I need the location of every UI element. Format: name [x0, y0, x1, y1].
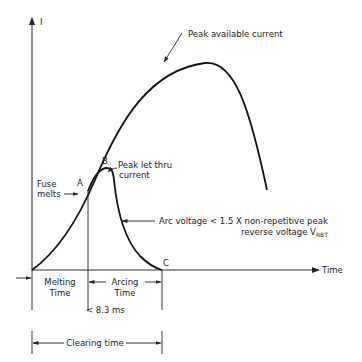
- peak-available-label: Peak available current: [188, 29, 283, 39]
- total-time-limit-label: < 8.3 ms: [86, 305, 125, 315]
- point-c-label: C: [163, 258, 169, 268]
- melting-time-label-1: Melting: [44, 277, 75, 287]
- clearing-time-label: Clearing time: [66, 338, 123, 348]
- arcing-time-label-1: Arcing: [112, 277, 139, 287]
- arc-voltage-text: reverse voltage V: [241, 227, 316, 237]
- arcing-time-label-2: Time: [114, 288, 136, 298]
- point-b-label: B: [102, 156, 108, 166]
- y-axis-label: I: [40, 17, 43, 27]
- peak-let-thru-label-1: Peak let thru: [118, 160, 172, 170]
- let-thru-current-curve: [88, 168, 162, 270]
- fuse-melts-label-2: melts: [37, 189, 61, 199]
- melting-time-label-2: Time: [49, 288, 71, 298]
- x-axis-label: Time: [321, 265, 343, 275]
- point-a-label: A: [77, 178, 83, 188]
- arc-voltage-subscript: RBT: [316, 231, 328, 238]
- fuse-clearing-diagram: I Time A B C Peak available current Peak…: [0, 0, 362, 362]
- peak-let-thru-label-2: current: [119, 170, 150, 180]
- fuse-melts-label-1: Fuse: [37, 179, 56, 189]
- peak-available-leader: [164, 33, 182, 62]
- arc-voltage-label-2: reverse voltage VRBT: [241, 227, 328, 238]
- arc-voltage-label-1: Arc voltage < 1.5 X non-repetitive peak: [159, 216, 328, 226]
